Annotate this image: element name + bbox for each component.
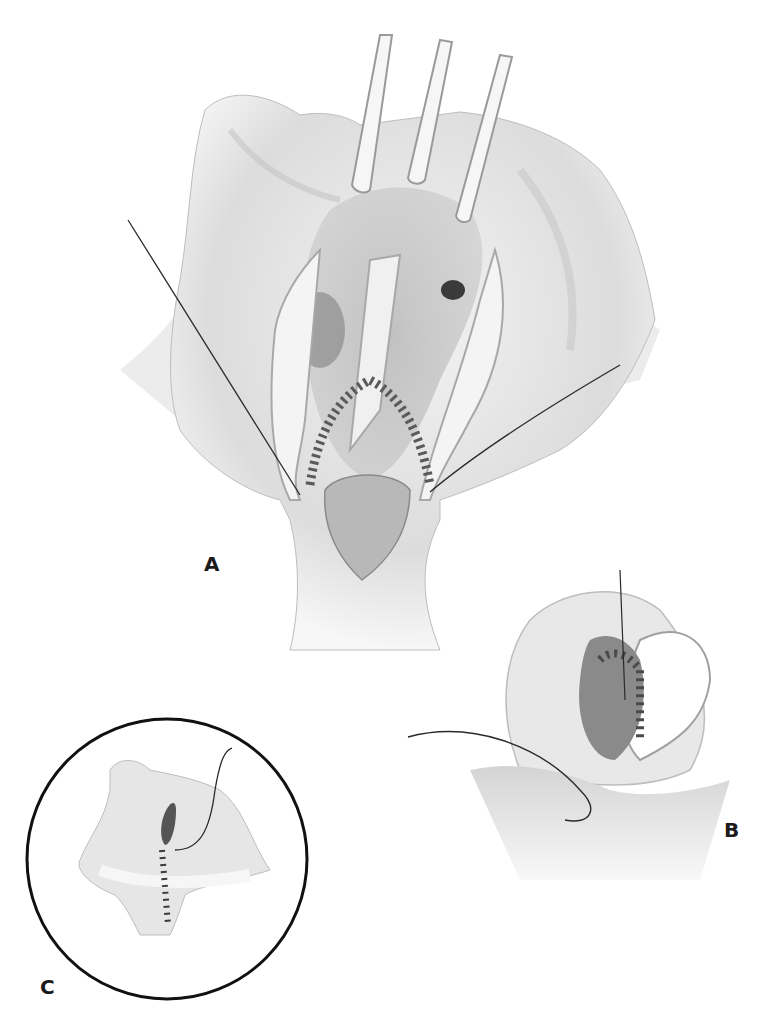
panel-label-c: C	[40, 975, 55, 999]
illustration-canvas	[0, 0, 774, 1018]
panel-label-b: B	[724, 818, 739, 842]
panel-c-inset	[27, 719, 307, 999]
panel-label-a: A	[204, 552, 219, 576]
panel-b-drawing	[408, 570, 730, 880]
panel-a-drawing	[120, 35, 660, 650]
dark-opening	[441, 280, 465, 300]
